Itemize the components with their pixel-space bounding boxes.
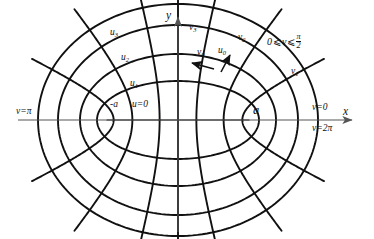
x-axis-label: x: [343, 106, 348, 118]
boundary-label-v-equals-two-pi: v=2π: [312, 124, 332, 134]
grid-curve: [32, 59, 114, 120]
u2-subscript: 2: [126, 56, 129, 63]
u-label-u2: u2: [121, 53, 129, 63]
range-numerator: π: [296, 33, 300, 41]
u0-subscript: 0: [223, 49, 226, 56]
boundary-label-v-equals-zero: v=0: [312, 103, 327, 113]
v2-subscript: 2: [242, 36, 245, 43]
unit-vector-label-v0: v0: [197, 48, 204, 58]
range-annotation: 0⩽v⩽π2: [267, 33, 301, 51]
u-label-u1: u1: [130, 79, 138, 89]
y-axis-label: y: [166, 10, 171, 22]
grid-curve: [196, 120, 219, 239]
grid-curve: [136, 120, 159, 239]
v0-unit-vector-arrow: [192, 63, 214, 69]
range-op1: ⩽: [272, 36, 282, 47]
u-label-u3: u3: [110, 28, 118, 38]
u1-subscript: 1: [135, 82, 138, 89]
v-label-v2: v2: [238, 33, 245, 43]
u3-subscript: 3: [115, 31, 118, 38]
focus-right-label: a: [253, 104, 259, 117]
u-label-u0: u=0: [132, 100, 148, 110]
range-denominator: 2: [296, 41, 300, 50]
v1-subscript: 1: [295, 70, 298, 77]
v-label-v3: v3: [189, 23, 196, 33]
range-op2: ⩽: [286, 36, 296, 47]
focus-left-label: -a: [110, 100, 118, 110]
v0-subscript: 0: [201, 51, 204, 58]
grid-curve: [32, 120, 114, 181]
elliptic-coordinate-diagram: [0, 0, 374, 239]
range-fraction: π2: [296, 33, 300, 51]
unit-vector-label-u0: u0: [218, 46, 226, 56]
v-label-v1: v1: [291, 67, 298, 77]
boundary-label-v-equals-pi: v=π: [16, 107, 31, 117]
v3-subscript: 3: [193, 26, 196, 33]
